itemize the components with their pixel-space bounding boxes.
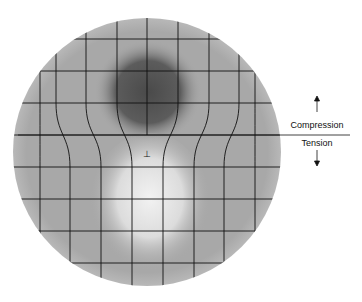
dislocation-symbol: ⊥ <box>143 149 151 159</box>
compression-label: Compression <box>284 120 350 130</box>
dislocation-diagram: ⊥ <box>0 0 362 302</box>
compression-zone <box>94 40 202 144</box>
tension-arrow-icon <box>315 150 320 166</box>
compression-arrow-icon <box>315 96 320 112</box>
tension-label: Tension <box>284 138 350 148</box>
